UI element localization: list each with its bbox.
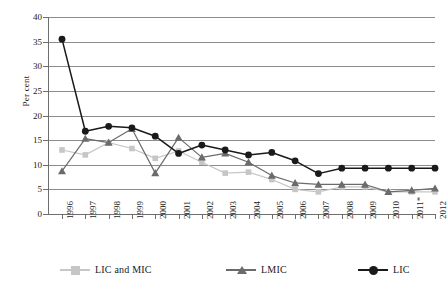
y-tick-mark [43, 91, 48, 92]
y-tick-mark [43, 116, 48, 117]
x-tick-label: 1997 [89, 201, 98, 219]
legend-label: LMIC [261, 265, 287, 275]
x-tick-label: 2009 [369, 201, 378, 219]
legend-item-lic-and-mic[interactable]: LIC and MIC [60, 262, 152, 278]
legend-label: LIC [393, 265, 410, 275]
gridline [48, 140, 435, 141]
legend-label: LIC and MIC [95, 265, 152, 275]
x-tick-label: 2004 [253, 201, 262, 219]
y-tick-label: 15 [20, 136, 42, 145]
legend-marker-triangle-icon [237, 266, 247, 274]
y-tick-mark [43, 66, 48, 67]
y-tick-mark [43, 140, 48, 141]
legend-swatch-square-icon [60, 263, 90, 277]
x-tick-label: 2002 [206, 201, 215, 219]
gridline [48, 42, 435, 43]
chart-container: 0510152025303540 Per cent 19961997199819… [0, 0, 448, 286]
y-tick-mark [43, 17, 48, 18]
y-tick-label: 5 [20, 185, 42, 194]
x-tick-label: 2005 [276, 201, 285, 219]
gridline [48, 91, 435, 92]
x-tick-label: 2001 [183, 201, 192, 219]
legend-item-lic[interactable]: LIC [358, 262, 410, 278]
x-tick-label: 2000 [159, 201, 168, 219]
legend-marker-square-icon [71, 266, 80, 275]
legend-swatch-triangle-icon [226, 263, 256, 277]
x-tick-label: 2008 [346, 201, 355, 219]
y-axis-line [48, 17, 49, 214]
gridline [48, 66, 435, 67]
y-tick-mark [43, 42, 48, 43]
y-tick-mark [43, 189, 48, 190]
y-tick-label: 10 [20, 160, 42, 169]
x-axis-tick-labels: 1996199719981999200020012002200320042005… [48, 219, 435, 259]
x-tick-label: 2006 [299, 201, 308, 219]
legend-swatch-circle-icon [358, 263, 388, 277]
x-tick-label: 2007 [322, 201, 331, 219]
y-tick-label: 40 [20, 13, 42, 22]
x-tick-label: 2012 [439, 201, 448, 219]
chart-legend: LIC and MICLMICLIC [48, 262, 438, 282]
gridline [48, 165, 435, 166]
x-tick-label: 1998 [113, 201, 122, 219]
gridline [48, 189, 435, 190]
x-tick-label: 2003 [229, 201, 238, 219]
x-tick-label: 2010 [392, 201, 401, 219]
legend-item-lmic[interactable]: LMIC [226, 262, 287, 278]
x-tick-label: 1999 [136, 201, 145, 219]
gridline [48, 116, 435, 117]
y-tick-label: 35 [20, 37, 42, 46]
y-tick-label: 0 [20, 210, 42, 219]
x-tick-label: 2011* [416, 197, 425, 219]
x-tick-mark [435, 214, 436, 219]
y-axis-title: Per cent [21, 51, 31, 131]
plot-area [48, 17, 435, 214]
x-tick-label: 1996 [66, 201, 75, 219]
legend-marker-circle-icon [369, 266, 378, 275]
y-tick-mark [43, 165, 48, 166]
gridline [48, 17, 435, 18]
